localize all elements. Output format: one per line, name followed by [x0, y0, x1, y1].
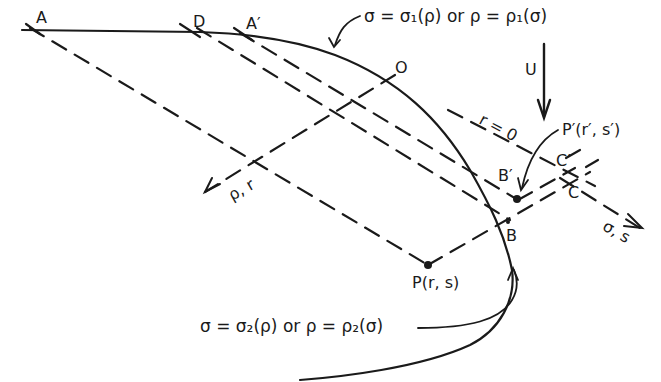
label-U: U — [525, 62, 537, 78]
dash-A-P — [30, 28, 428, 265]
label-A-prime: A′ — [246, 16, 261, 32]
dash-rho-axis — [205, 75, 395, 192]
label-C: C — [568, 185, 579, 201]
label-D: D — [193, 14, 205, 30]
label-C-prime: C′ — [556, 153, 571, 169]
label-P-prime: P′(r′, s′) — [562, 122, 620, 138]
label-B: B — [506, 228, 517, 244]
label-upper-curve: σ = σ₁(ρ) or ρ = ρ₁(σ) — [364, 8, 547, 25]
label-O: O — [395, 60, 408, 76]
label-A: A — [36, 10, 47, 26]
label-lower-curve: σ = σ₂(ρ) or ρ = ρ₂(σ) — [200, 318, 383, 335]
label-B-prime: B′ — [498, 168, 513, 184]
upper-curve — [22, 30, 512, 270]
label-P: P(r, s) — [412, 275, 459, 291]
dash-Aprime-Bprime — [240, 33, 518, 200]
dash-P-C — [428, 172, 590, 265]
